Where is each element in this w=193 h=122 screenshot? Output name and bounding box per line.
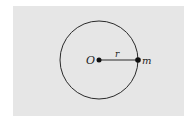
mass-label: m	[142, 55, 151, 66]
circular-orbit-diagram: O r m	[0, 0, 193, 122]
mass-point	[135, 57, 141, 63]
radius-label: r	[115, 49, 120, 59]
center-label: O	[86, 54, 95, 67]
center-point	[97, 58, 102, 63]
